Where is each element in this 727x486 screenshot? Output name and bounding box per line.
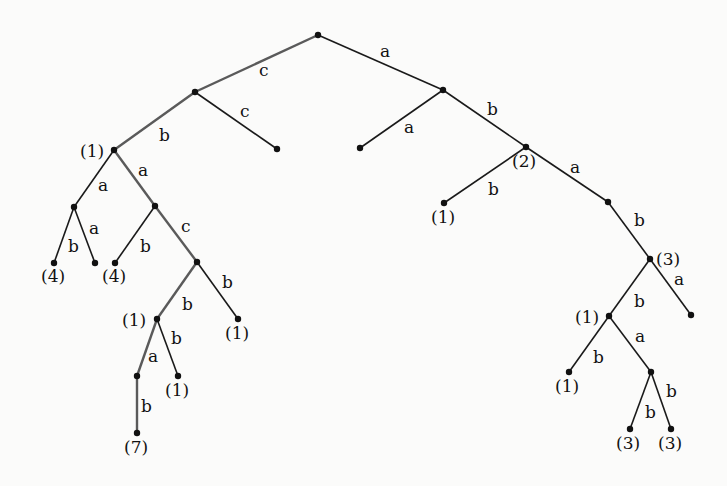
tree-node	[647, 256, 653, 262]
tree-node	[627, 426, 633, 432]
edge-label: b	[645, 402, 656, 422]
edge-label: a	[404, 117, 414, 137]
tree-node	[274, 146, 280, 152]
tree-edge	[443, 90, 526, 147]
tree-node	[566, 369, 572, 375]
labeled-tree-diagram: ccbaababcbbabbaabbababbabb (1)(4)(4)(1)(…	[0, 0, 727, 486]
edge-label: b	[666, 381, 677, 401]
edge-label: b	[182, 294, 193, 314]
tree-node	[441, 200, 447, 206]
tree-node	[111, 147, 117, 153]
tree-node	[92, 260, 98, 266]
tree-edge	[114, 150, 155, 206]
edge-label: b	[171, 328, 182, 348]
tree-node	[152, 203, 158, 209]
tree-node	[648, 369, 654, 375]
tree-node	[315, 32, 321, 38]
edge-label: a	[674, 269, 684, 289]
node-count-label: (1)	[80, 141, 104, 161]
node-count-label: (3)	[658, 433, 682, 453]
edge-label: c	[181, 216, 191, 236]
edge-label: b	[593, 347, 604, 367]
tree-node	[606, 313, 612, 319]
node-count-label: (1)	[225, 323, 249, 343]
edge-label: b	[159, 125, 170, 145]
tree-edge	[195, 35, 318, 92]
tree-node	[523, 144, 529, 150]
node-count-label: (7)	[124, 437, 148, 457]
edge-label: b	[141, 396, 152, 416]
tree-edge	[114, 92, 195, 150]
edge-label: b	[68, 236, 79, 256]
tree-edges	[54, 35, 691, 433]
node-count-label: (2)	[512, 151, 536, 171]
tree-edge	[155, 206, 197, 262]
edge-label: a	[89, 218, 99, 238]
edge-label: a	[635, 326, 645, 346]
edge-label: b	[487, 99, 498, 119]
edge-label: b	[634, 291, 645, 311]
tree-node	[175, 373, 181, 379]
edge-label: b	[222, 272, 233, 292]
node-count-label: (1)	[165, 380, 189, 400]
node-count-label: (3)	[656, 249, 680, 269]
edge-label: c	[240, 101, 250, 121]
edge-label: a	[138, 160, 148, 180]
edge-labels: ccbaababcbbabbaabbababbabb	[68, 41, 684, 422]
node-count-label: (1)	[431, 207, 455, 227]
tree-node	[605, 199, 611, 205]
tree-node	[71, 204, 77, 210]
tree-node	[357, 145, 363, 151]
tree-node	[192, 89, 198, 95]
node-count-label: (1)	[575, 307, 599, 327]
node-count-label: (3)	[616, 433, 640, 453]
tree-edge	[195, 92, 277, 149]
edge-label: b	[140, 236, 151, 256]
edge-label: a	[380, 41, 390, 61]
tree-nodes	[51, 32, 694, 436]
tree-node	[134, 430, 140, 436]
node-count-label: (4)	[102, 266, 126, 286]
edge-label: b	[634, 210, 645, 230]
tree-node	[194, 259, 200, 265]
edge-label: b	[488, 179, 499, 199]
tree-edge	[360, 90, 443, 148]
edge-label: a	[570, 157, 580, 177]
tree-node	[688, 312, 694, 318]
node-count-label: (1)	[122, 310, 146, 330]
node-count-label: (1)	[555, 376, 579, 396]
tree-edge	[526, 147, 608, 202]
edge-label: c	[259, 60, 269, 80]
tree-node	[154, 316, 160, 322]
edge-label: a	[98, 175, 108, 195]
tree-node	[235, 316, 241, 322]
tree-node	[134, 373, 140, 379]
tree-node	[440, 87, 446, 93]
tree-node	[668, 426, 674, 432]
node-count-label: (4)	[41, 266, 65, 286]
edge-label: a	[148, 346, 158, 366]
